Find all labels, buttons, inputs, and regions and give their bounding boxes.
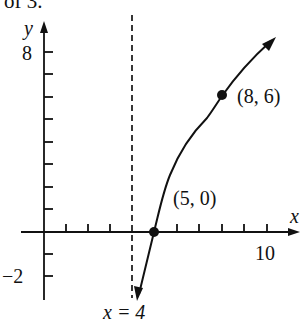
y-tick-label-neg2: −2 (2, 266, 23, 286)
function-curve (139, 41, 271, 294)
y-axis-label: y (24, 18, 33, 38)
point-label-8-6: (8, 6) (237, 86, 280, 106)
x-axis-label: x (290, 206, 299, 226)
y-tick-label-8: 8 (22, 43, 32, 63)
asymptote-label: x = 4 (103, 302, 145, 322)
point-8-6 (217, 90, 227, 100)
curve-upper-arrow-icon (262, 37, 276, 51)
x-tick-label-10: 10 (255, 243, 275, 263)
curve-lower-arrow-icon (134, 286, 143, 301)
x-axis-arrow-icon (288, 228, 300, 236)
point-label-5-0: (5, 0) (173, 188, 216, 208)
graph (0, 0, 307, 323)
y-axis (40, 21, 53, 300)
x-axis (21, 224, 300, 236)
point-5-0 (149, 227, 159, 237)
y-axis-arrow-icon (40, 21, 48, 33)
